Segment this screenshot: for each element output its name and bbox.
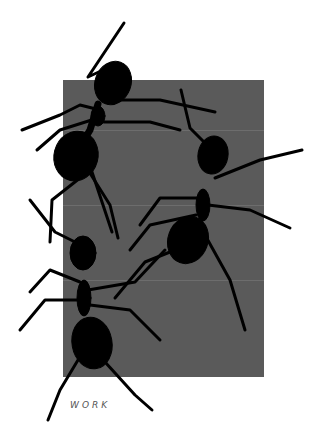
ant-top (22, 23, 215, 242)
ant-right (115, 90, 302, 330)
caption-text: WORK (70, 400, 110, 410)
artwork-canvas: WORK (0, 0, 320, 448)
ants-illustration (0, 0, 320, 448)
